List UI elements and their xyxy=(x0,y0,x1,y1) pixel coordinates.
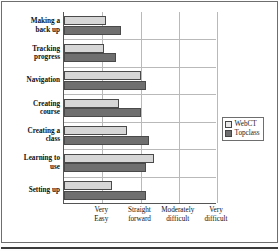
legend-label: WebCT xyxy=(235,120,257,129)
category-label: Navigation xyxy=(2,76,60,84)
category-label-line: back up xyxy=(2,26,60,34)
legend-label: Topclass xyxy=(235,129,260,138)
bar-group xyxy=(64,94,216,121)
category-label-line: use xyxy=(2,163,60,171)
plot-area xyxy=(63,12,216,204)
category-label-line: Tracking xyxy=(2,45,60,53)
gridline-vertical xyxy=(217,12,218,203)
legend-swatch-icon xyxy=(225,121,232,128)
category-label: Creatingcourse xyxy=(2,100,60,117)
category-label-line: class xyxy=(2,135,60,143)
value-tick-label-line: Very xyxy=(190,206,242,215)
category-label: Making aback up xyxy=(2,17,60,34)
bar-topclass[interactable] xyxy=(64,26,121,35)
bar-topclass[interactable] xyxy=(64,136,149,145)
category-label-line: Setting up xyxy=(2,186,60,194)
category-label: Learning touse xyxy=(2,154,60,171)
legend-item-webct[interactable]: WebCT xyxy=(225,120,260,129)
bar-topclass[interactable] xyxy=(64,81,146,90)
bar-group xyxy=(64,122,216,149)
category-label: Trackingprogress xyxy=(2,45,60,62)
bar-webct[interactable] xyxy=(64,44,104,53)
bar-group xyxy=(64,12,216,39)
category-label-line: course xyxy=(2,108,60,116)
category-label-line: Learning to xyxy=(2,154,60,162)
bar-topclass[interactable] xyxy=(64,163,146,172)
bar-group xyxy=(64,39,216,66)
category-label-line: Creating xyxy=(2,100,60,108)
bar-group xyxy=(64,177,216,204)
bar-webct[interactable] xyxy=(64,99,119,108)
bar-webct[interactable] xyxy=(64,154,154,163)
bar-topclass[interactable] xyxy=(64,53,116,62)
value-tick-label-line: difficult xyxy=(190,215,242,224)
category-label-line: Creating a xyxy=(2,127,60,135)
bottom-rule xyxy=(1,247,278,249)
bar-topclass[interactable] xyxy=(64,191,146,200)
value-tick-label: Verydifficult xyxy=(190,206,242,223)
bar-topclass[interactable] xyxy=(64,108,141,117)
bar-group xyxy=(64,149,216,176)
legend-swatch-icon xyxy=(225,130,232,137)
bar-webct[interactable] xyxy=(64,16,106,25)
legend: WebCTTopclass xyxy=(222,117,264,141)
bar-group xyxy=(64,67,216,94)
bar-webct[interactable] xyxy=(64,126,127,135)
category-label: Creating aclass xyxy=(2,127,60,144)
figure: Making aback upTrackingprogressNavigatio… xyxy=(0,0,279,251)
category-label-line: Navigation xyxy=(2,76,60,84)
legend-item-topclass[interactable]: Topclass xyxy=(225,129,260,138)
category-label-line: progress xyxy=(2,53,60,61)
category-label: Setting up xyxy=(2,186,60,194)
bar-webct[interactable] xyxy=(64,71,141,80)
category-label-line: Making a xyxy=(2,17,60,25)
bar-webct[interactable] xyxy=(64,181,112,190)
